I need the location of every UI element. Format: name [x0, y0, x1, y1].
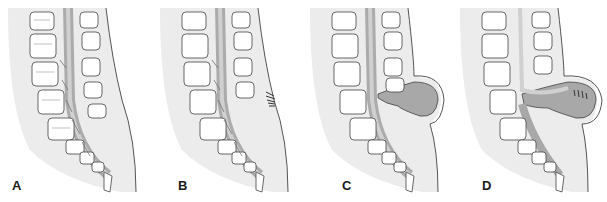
- panel-c: C: [302, 0, 454, 202]
- panel-b: B: [152, 0, 304, 202]
- panel-label: A: [12, 178, 21, 193]
- spine-cross-section-hair-tuft: [152, 0, 304, 202]
- panel-d: D: [452, 0, 604, 202]
- spine-cross-section-normal: [0, 0, 152, 202]
- panel-label: D: [482, 178, 491, 193]
- panel-a: A: [0, 0, 152, 202]
- panel-label: C: [342, 178, 351, 193]
- spine-cross-section-sac: [302, 0, 454, 202]
- spine-cross-section-sac-with-nerves: [452, 0, 607, 202]
- panel-label: B: [178, 178, 187, 193]
